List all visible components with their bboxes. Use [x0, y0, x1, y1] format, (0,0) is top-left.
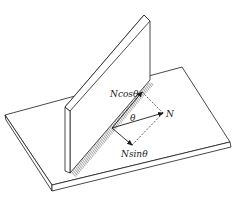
label-theta: θ: [130, 113, 136, 123]
label-n: N: [165, 109, 175, 119]
label-n-cos: Ncosθ: [109, 89, 139, 99]
force-diagram: Ncosθ N θ Nsinθ: [0, 0, 239, 200]
label-n-sin: Nsinθ: [120, 149, 148, 159]
wall-edge-front: [65, 107, 70, 173]
